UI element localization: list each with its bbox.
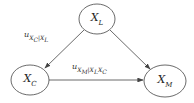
node-xl-label: XL <box>91 11 104 26</box>
edge-label-xm-given-xl-xc: uXM|XLXC <box>72 62 107 75</box>
edge-label-xc-given-xl: uXC|XL <box>24 30 48 43</box>
node-xm-label: XM <box>157 73 172 88</box>
node-xc-label: XC <box>23 72 36 87</box>
edge-xl-xm <box>110 30 150 69</box>
